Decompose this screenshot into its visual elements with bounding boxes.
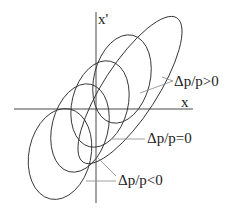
label-dp-negative: Δp/p<0 — [118, 173, 163, 188]
x-axis-label: x — [181, 95, 189, 110]
ellipse-positive-1 — [84, 29, 160, 130]
leader-negative-a — [98, 158, 116, 176]
ellipse-negative-1 — [42, 78, 118, 179]
ellipse-negative-2 — [20, 103, 100, 206]
label-dp-positive: Δp/p>0 — [174, 74, 219, 89]
diagram-canvas — [0, 0, 228, 216]
phase-space-diagram: x' x Δp/p>0 Δp/p=0 Δp/p<0 — [0, 0, 228, 216]
label-dp-zero: Δp/p=0 — [147, 131, 192, 146]
leader-positive-b — [140, 81, 173, 93]
ellipse-positive-envelope — [61, 3, 200, 177]
leader-positive-a — [162, 77, 173, 81]
xprime-axis-label: x' — [98, 12, 108, 27]
